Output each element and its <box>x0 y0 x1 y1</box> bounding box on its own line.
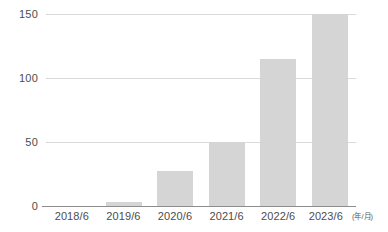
x-tick-label-2019: 2019/6 <box>98 209 150 223</box>
x-axis-unit-label: (年/月) <box>352 212 373 222</box>
x-tick-label-2021: 2021/6 <box>201 209 253 223</box>
x-tick-label-2018: 2018/6 <box>46 209 98 223</box>
bar-slot <box>252 14 304 206</box>
bar-slot <box>304 14 356 206</box>
clipped-title-strip <box>0 0 388 5</box>
y-tick-label-50: 50 <box>2 137 38 148</box>
y-tick-label-100: 100 <box>2 73 38 84</box>
y-tick-label-0: 0 <box>2 201 38 212</box>
y-tick-label-150: 150 <box>2 9 38 20</box>
x-axis-line <box>42 206 356 207</box>
bar-2021 <box>209 142 245 206</box>
bar-slot <box>149 14 201 206</box>
x-tick-label-2020: 2020/6 <box>149 209 201 223</box>
bar-slot <box>46 14 98 206</box>
x-axis-labels: 2018/6 2019/6 2020/6 2021/6 2022/6 2023/… <box>46 209 356 229</box>
bar-2022 <box>260 59 296 206</box>
bar-2020 <box>157 171 193 206</box>
bar-chart: 150 100 50 0 2018/6 2019/6 2020/6 2021/6… <box>0 0 388 232</box>
bar-slot <box>201 14 253 206</box>
bar-slot <box>98 14 150 206</box>
x-tick-label-2023: 2023/6 <box>300 209 352 223</box>
bar-2023 <box>312 14 348 206</box>
bar-series <box>46 14 356 206</box>
bar-2019 <box>106 202 142 206</box>
x-tick-label-2022: 2022/6 <box>252 209 304 223</box>
